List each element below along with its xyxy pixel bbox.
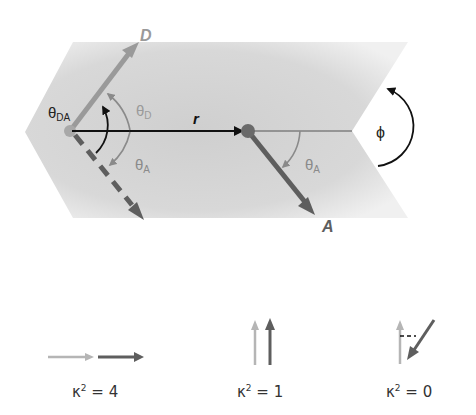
fret-orientation-diagram: D A r θDA θD θA θA ϕ xyxy=(0,0,476,415)
acceptor-label: A xyxy=(321,218,334,235)
legend-collinear-arrows xyxy=(48,352,144,362)
acceptor-dot xyxy=(241,124,255,138)
legend-parallel-arrows xyxy=(251,318,275,365)
legend-label-kappa0: κ2 = 0 xyxy=(386,383,432,401)
donor-label: D xyxy=(140,27,152,44)
legend-label-kappa4: κ2 = 4 xyxy=(72,383,118,401)
legend-perpendicular-arrows xyxy=(396,320,434,364)
legend-label-kappa1: κ2 = 1 xyxy=(237,383,283,401)
phi-label: ϕ xyxy=(376,124,385,141)
